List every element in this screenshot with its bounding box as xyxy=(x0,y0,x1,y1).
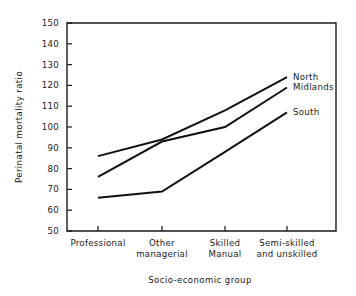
series-lines-group xyxy=(98,77,287,198)
series-line-midlands xyxy=(98,87,287,176)
series-label-midlands: Midlands xyxy=(293,82,334,92)
x-tick-label-2: SkilledManual xyxy=(208,238,241,259)
x-tick-label-1: Othermanagerial xyxy=(136,238,188,259)
plot-frame xyxy=(67,23,336,231)
series-label-south: South xyxy=(293,107,319,117)
series-label-north: North xyxy=(293,72,319,82)
x-axis-title: Socio-economic group xyxy=(148,275,252,285)
y-axis-tick-labels: 5060708090100110120130140150 xyxy=(42,18,59,236)
y-axis-ticks xyxy=(67,23,72,231)
y-tick-label-150: 150 xyxy=(42,18,59,28)
x-tick-label-0: Professional xyxy=(70,238,125,248)
y-tick-label-80: 80 xyxy=(47,164,59,174)
y-tick-label-60: 60 xyxy=(47,205,59,215)
y-tick-label-90: 90 xyxy=(47,143,59,153)
chart-figure: 5060708090100110120130140150 Professiona… xyxy=(0,0,356,296)
x-axis-ticks xyxy=(98,226,287,231)
y-tick-label-110: 110 xyxy=(42,101,59,111)
y-tick-label-130: 130 xyxy=(42,60,59,70)
perinatal-mortality-line-chart: 5060708090100110120130140150 Professiona… xyxy=(0,0,356,296)
y-tick-label-100: 100 xyxy=(42,122,59,132)
x-tick-label-3: Semi-skilledand unskilled xyxy=(256,238,317,259)
y-tick-label-70: 70 xyxy=(47,184,59,194)
y-tick-label-120: 120 xyxy=(42,80,59,90)
series-line-north xyxy=(98,77,287,156)
y-axis-title: Perinatal mortality ratio xyxy=(14,71,24,183)
y-tick-label-50: 50 xyxy=(47,226,59,236)
y-tick-label-140: 140 xyxy=(42,39,59,49)
series-labels-group: NorthMidlandsSouth xyxy=(293,72,334,117)
x-axis-tick-labels: ProfessionalOthermanagerialSkilledManual… xyxy=(70,238,317,259)
